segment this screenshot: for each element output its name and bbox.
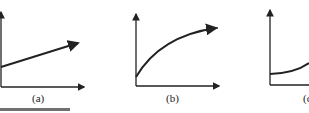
convex-curve-c	[270, 63, 309, 74]
linear-curve-a	[1, 43, 78, 67]
graph-panels	[0, 0, 309, 113]
panel-b-graph	[136, 14, 219, 86]
panel-c-graph	[270, 10, 309, 85]
footer-fragment	[0, 108, 70, 111]
concave-curve-b	[136, 28, 216, 77]
panel-b-label: (b)	[166, 92, 179, 104]
panel-a-graph	[1, 12, 84, 87]
panel-c-label: (c)	[303, 92, 309, 104]
panel-a-label: (a)	[32, 92, 44, 104]
